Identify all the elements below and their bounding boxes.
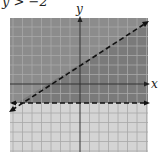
x-axis-label: x (151, 77, 158, 91)
y-axis-label: y (76, 2, 83, 16)
coordinate-graph (0, 0, 158, 152)
